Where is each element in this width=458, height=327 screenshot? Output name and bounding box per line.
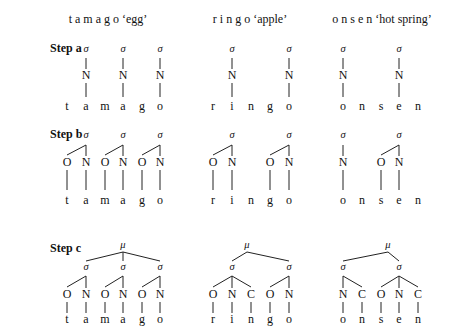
- segment: i: [230, 312, 234, 326]
- syllabification-diagram: t a m a g o ‘egg’r i n g o ‘apple’o n s …: [0, 0, 458, 327]
- syllable-node: σ: [229, 261, 235, 272]
- segment: n: [415, 193, 421, 207]
- nucleus-node: N: [156, 287, 165, 301]
- tree-branch: [232, 276, 251, 287]
- mu-node: μ: [119, 239, 125, 250]
- onset-node: O: [266, 155, 275, 169]
- segment: a: [120, 99, 126, 113]
- segment: r: [211, 312, 215, 326]
- syllable-node: σ: [396, 43, 402, 54]
- onset-node: O: [209, 155, 218, 169]
- syllable-node: σ: [120, 129, 126, 140]
- tree-branch: [123, 252, 160, 261]
- syllable-node: σ: [120, 261, 126, 272]
- tree-branch: [67, 276, 86, 287]
- onset-node: O: [266, 287, 275, 301]
- segment: o: [157, 312, 163, 326]
- nucleus-node: N: [228, 155, 237, 169]
- nucleus-node: N: [339, 155, 348, 169]
- tree-branch: [142, 276, 160, 287]
- tree-branch: [232, 252, 247, 261]
- tree-branch: [67, 145, 86, 155]
- segment: n: [359, 99, 365, 113]
- step-label: Step a: [50, 41, 82, 55]
- segment: o: [340, 312, 346, 326]
- tree-branch: [86, 252, 123, 261]
- tree-branch: [213, 276, 232, 287]
- onset-node: O: [63, 287, 72, 301]
- segment: o: [340, 193, 346, 207]
- segment: a: [83, 193, 89, 207]
- segment: a: [83, 99, 89, 113]
- step-b-tree: σONσONringo: [209, 129, 294, 207]
- step-a-tree: σNσNringo: [211, 43, 294, 113]
- segment: m: [100, 312, 110, 326]
- segment: g: [139, 312, 145, 326]
- syllable-node: σ: [396, 261, 402, 272]
- segment: n: [248, 312, 254, 326]
- segment: t: [65, 193, 69, 207]
- step-labels: Step aStep bStep c: [50, 41, 83, 255]
- onset-node: O: [209, 287, 218, 301]
- segment: s: [379, 99, 384, 113]
- segment: i: [230, 99, 234, 113]
- onset-node: O: [377, 155, 386, 169]
- segment: e: [396, 312, 401, 326]
- nucleus-node: N: [339, 68, 348, 82]
- nucleus-node: N: [156, 68, 165, 82]
- coda-node: C: [247, 287, 255, 301]
- onset-node: O: [138, 287, 147, 301]
- syllable-node: σ: [157, 261, 163, 272]
- step-label: Step b: [50, 127, 83, 141]
- segment: n: [359, 312, 365, 326]
- nucleus-node: N: [285, 155, 294, 169]
- nucleus-node: N: [285, 68, 294, 82]
- tree-branch: [105, 276, 123, 287]
- segment: m: [100, 193, 110, 207]
- word-header: r i n g o ‘apple’: [213, 12, 287, 26]
- step-c-tree: μσNCσNOConsen: [339, 239, 422, 326]
- word-headers: t a m a g o ‘egg’r i n g o ‘apple’o n s …: [69, 12, 432, 26]
- tree-branch: [399, 276, 418, 287]
- segment: s: [379, 312, 384, 326]
- syllable-node: σ: [229, 43, 235, 54]
- nucleus-node: N: [339, 287, 348, 301]
- segment: n: [359, 193, 365, 207]
- nucleus-node: N: [82, 68, 91, 82]
- onset-node: O: [377, 287, 386, 301]
- nucleus-node: N: [228, 287, 237, 301]
- syllable-node: σ: [396, 129, 402, 140]
- nucleus-node: N: [285, 287, 294, 301]
- segment: o: [157, 99, 163, 113]
- onset-node: O: [101, 155, 110, 169]
- onset-node: O: [63, 155, 72, 169]
- segment: r: [211, 193, 215, 207]
- nucleus-node: N: [119, 68, 128, 82]
- segment: t: [65, 99, 69, 113]
- segment: t: [65, 312, 69, 326]
- segment: a: [120, 312, 126, 326]
- word-header: o n s e n ‘hot spring’: [332, 12, 431, 26]
- segment: o: [157, 193, 163, 207]
- segment: n: [415, 99, 421, 113]
- nucleus-node: N: [395, 155, 404, 169]
- syllable-node: σ: [340, 43, 346, 54]
- segment: g: [267, 193, 273, 207]
- nucleus-node: N: [119, 287, 128, 301]
- segment: o: [286, 193, 292, 207]
- mu-node: μ: [384, 239, 390, 250]
- syllable-node: σ: [83, 43, 89, 54]
- segment: g: [139, 193, 145, 207]
- tree-branch: [388, 252, 399, 261]
- nucleus-node: N: [156, 155, 165, 169]
- step-c-tree: μσNOCσNOringo: [209, 239, 294, 326]
- segment: e: [396, 99, 401, 113]
- onset-node: O: [101, 287, 110, 301]
- nucleus-node: N: [228, 68, 237, 82]
- syllable-node: σ: [229, 129, 235, 140]
- word-tamago: σNσNσNtamagoσONσONσONtamagoμσNOσNOσNOtam…: [63, 43, 165, 326]
- mu-node: μ: [243, 239, 249, 250]
- tree-branch: [142, 145, 160, 155]
- tree-branch: [270, 145, 289, 155]
- step-label: Step c: [50, 241, 82, 255]
